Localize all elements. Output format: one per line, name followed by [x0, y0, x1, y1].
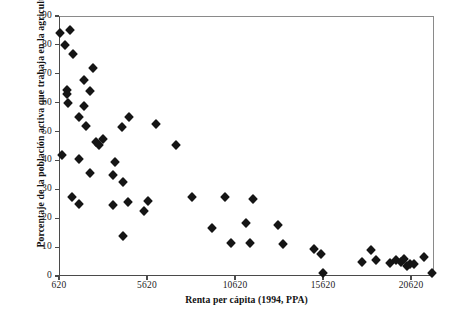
data-point — [220, 192, 230, 202]
data-point — [79, 75, 89, 85]
data-point — [143, 196, 153, 206]
y-tick-label: 30 — [26, 183, 52, 193]
data-point — [248, 194, 258, 204]
data-point — [67, 192, 77, 202]
data-point — [151, 119, 161, 129]
data-point — [79, 101, 89, 111]
data-point — [278, 239, 288, 249]
data-point — [88, 63, 98, 73]
data-point — [226, 238, 236, 248]
data-point — [74, 154, 84, 164]
x-tick-mark — [234, 276, 235, 280]
data-point — [85, 86, 95, 96]
data-point — [57, 150, 67, 160]
y-tick-label: 0 — [26, 270, 52, 280]
data-point — [81, 121, 91, 131]
data-point — [316, 249, 326, 259]
chart-page: Porcentaje de la población activa que tr… — [0, 0, 458, 322]
y-tick-label: 20 — [26, 212, 52, 222]
data-point — [371, 255, 381, 265]
y-axis-title: Porcentaje de la población activa que tr… — [35, 0, 46, 248]
y-tick-label: 70 — [26, 68, 52, 78]
x-tick-label: 10620 — [205, 280, 265, 290]
data-point — [55, 28, 65, 38]
x-tick-label: 5620 — [117, 280, 177, 290]
data-point — [74, 112, 84, 122]
data-point — [108, 200, 118, 210]
data-point — [427, 268, 437, 278]
y-tick-label: 40 — [26, 154, 52, 164]
data-point — [207, 223, 217, 233]
y-tick-label: 80 — [26, 39, 52, 49]
data-point — [65, 25, 75, 35]
data-point — [123, 197, 133, 207]
x-tick-mark — [410, 276, 411, 280]
data-point — [273, 220, 283, 230]
data-point — [110, 157, 120, 167]
y-tick-label: 10 — [26, 241, 52, 251]
x-tick-label: 20620 — [381, 280, 441, 290]
data-point — [117, 122, 127, 132]
y-tick-label: 50 — [26, 126, 52, 136]
data-point — [74, 199, 84, 209]
data-point — [419, 252, 429, 262]
x-tick-label: 620 — [29, 280, 89, 290]
data-point — [318, 268, 328, 278]
y-tick-label: 60 — [26, 97, 52, 107]
data-point — [85, 168, 95, 178]
data-point — [63, 98, 73, 108]
data-point — [245, 238, 255, 248]
data-point — [171, 140, 181, 150]
x-tick-mark — [146, 276, 147, 280]
data-point — [108, 170, 118, 180]
scatter-plot-area — [59, 16, 434, 276]
x-tick-mark — [58, 276, 59, 280]
data-point — [366, 245, 376, 255]
data-point — [124, 112, 134, 122]
data-point — [187, 192, 197, 202]
y-tick-label: 90 — [26, 10, 52, 20]
data-point — [118, 177, 128, 187]
data-point — [68, 49, 78, 59]
data-point — [118, 231, 128, 241]
data-point — [60, 40, 70, 50]
x-axis-title: Renta per cápita (1994, PPA) — [59, 294, 434, 305]
x-tick-label: 15620 — [293, 280, 353, 290]
data-point — [241, 218, 251, 228]
data-point — [139, 206, 149, 216]
data-point — [357, 257, 367, 267]
